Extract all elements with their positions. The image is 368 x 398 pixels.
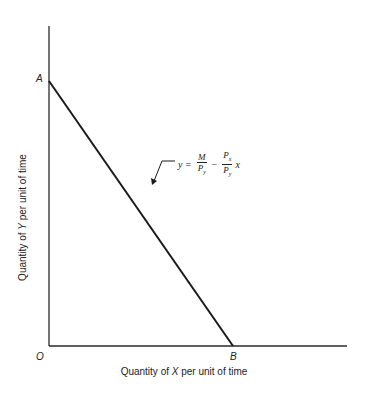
diagram-canvas (0, 0, 368, 398)
y-axis-label: Quantity of Y per unit of time (17, 118, 28, 318)
point-b-label: B (230, 351, 237, 362)
fraction-m-over-py: M Py (197, 152, 207, 177)
budget-line (49, 81, 233, 346)
x-axis-label: Quantity of X per unit of time (0, 366, 368, 377)
origin-label: O (36, 351, 44, 362)
budget-equation: y = M Py − Px Py x (178, 150, 240, 179)
point-a-label: A (36, 73, 43, 84)
fraction-px-over-py: Px Py (222, 150, 232, 179)
arrow-head-icon (151, 178, 157, 185)
leader-line (154, 161, 175, 181)
